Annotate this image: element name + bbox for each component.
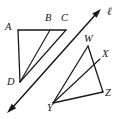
vertex-label-a: A: [5, 22, 11, 33]
line-label-l: ℓ: [107, 6, 112, 17]
vertex-label-c: C: [61, 13, 68, 24]
geometry-figure: A B C D W X Y Z ℓ: [0, 0, 121, 119]
vertex-label-x: X: [102, 49, 108, 60]
segment-YZ: [53, 92, 103, 103]
segment-WZ: [88, 46, 103, 92]
transversal-line-group: [7, 9, 101, 113]
vertex-label-d: D: [7, 77, 15, 88]
line-l-shaft: [13, 14, 96, 107]
vertex-label-z: Z: [105, 88, 111, 99]
vertex-label-w: W: [84, 34, 93, 45]
segment-AD: [18, 30, 20, 82]
vertex-label-b: B: [45, 13, 51, 24]
segment-DB: [20, 30, 50, 82]
vertex-label-y: Y: [47, 103, 53, 114]
